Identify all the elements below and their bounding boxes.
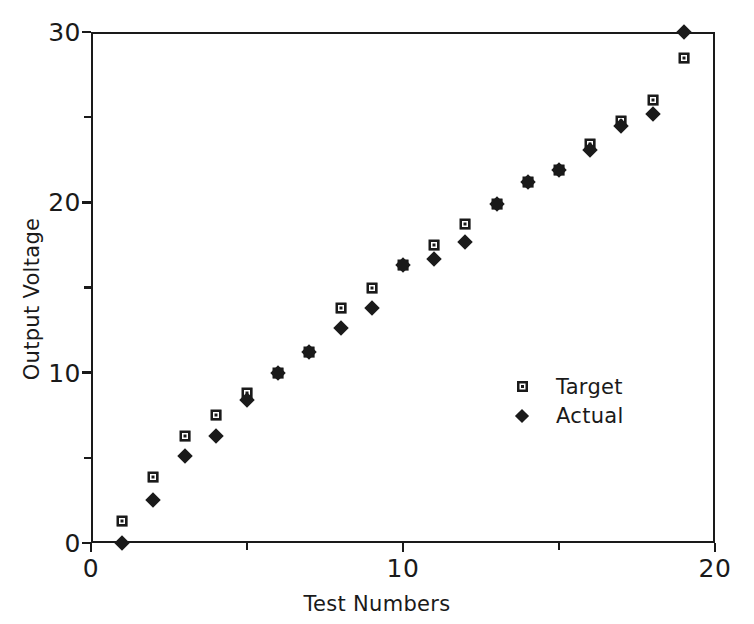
x-tick-minor <box>246 543 249 550</box>
y-tick-major <box>82 201 91 204</box>
y-tick-label: 30 <box>7 20 81 45</box>
y-tick-label: 0 <box>7 531 81 556</box>
y-tick-major <box>82 31 91 34</box>
y-tick-minor <box>84 457 91 460</box>
legend-label-actual: Actual <box>556 404 624 428</box>
x-tick-label: 0 <box>51 556 131 581</box>
target-square-marker-icon <box>509 381 535 392</box>
y-tick-label: 10 <box>7 360 81 385</box>
legend-item-target: Target <box>509 372 624 401</box>
y-tick-minor <box>84 286 91 289</box>
x-tick-major <box>402 543 405 552</box>
x-tick-label: 20 <box>675 556 754 581</box>
x-tick-major <box>90 543 93 552</box>
legend-item-actual: Actual <box>509 401 624 430</box>
x-tick-minor <box>558 543 561 550</box>
x-tick-major <box>714 543 717 552</box>
x-axis-title: Test Numbers <box>0 592 754 616</box>
legend-label-target: Target <box>556 375 623 399</box>
plot-area <box>91 32 715 543</box>
scatter-chart: 0102030 01020 Output Voltage Test Number… <box>0 0 754 624</box>
x-tick-label: 10 <box>363 556 443 581</box>
chart-legend: Target Actual <box>509 372 624 430</box>
y-tick-label: 20 <box>7 190 81 215</box>
y-tick-major <box>82 371 91 374</box>
actual-diamond-marker-icon <box>509 411 535 421</box>
y-axis-title: Output Voltage <box>20 149 44 449</box>
y-tick-minor <box>84 116 91 119</box>
